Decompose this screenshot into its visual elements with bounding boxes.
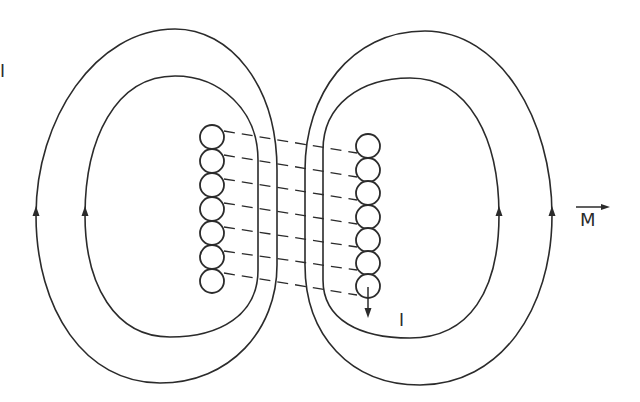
right-coil-turn-4 <box>356 205 380 229</box>
left-coil-turn-4 <box>200 197 224 221</box>
magnetization-label: M <box>580 211 596 229</box>
right-coil-turn-2 <box>356 158 380 182</box>
right-outer-arrow-up-icon <box>549 206 556 216</box>
left-outer-arrow-up-icon <box>33 206 40 216</box>
right-inner-arrow-up-icon <box>496 206 503 216</box>
right-coil-turn-1 <box>356 134 380 158</box>
left-coil-turn-5 <box>200 221 224 245</box>
left-coil-turn-3 <box>200 173 224 197</box>
winding-line-1 <box>224 131 357 153</box>
diagram-canvas: I I M <box>0 0 640 402</box>
winding-line-2 <box>224 155 357 177</box>
left-coil-turn-7 <box>200 269 224 293</box>
right-coil-turn-6 <box>356 251 380 275</box>
dashed-windings <box>224 131 357 295</box>
left-coil-turn-2 <box>200 149 224 173</box>
left-outer-field-loop <box>36 29 277 383</box>
winding-line-6 <box>224 251 357 270</box>
left-coil <box>200 125 224 293</box>
top-left-label: I <box>0 63 5 80</box>
right-inner-field-loop <box>323 78 499 338</box>
left-inner-field-loop <box>85 76 258 337</box>
winding-line-5 <box>224 227 357 247</box>
left-coil-turn-1 <box>200 125 224 149</box>
current-arrow-down-icon <box>365 308 372 318</box>
winding-line-3 <box>224 179 357 200</box>
winding-line-4 <box>224 203 357 224</box>
right-coil-turn-3 <box>356 181 380 205</box>
vector-m-arrow-right-icon <box>601 204 610 210</box>
right-coil-turn-5 <box>356 228 380 252</box>
left-coil-turn-6 <box>200 245 224 269</box>
left-inner-arrow-up-icon <box>82 206 89 216</box>
right-coil <box>356 134 380 298</box>
current-label: I <box>399 312 404 329</box>
right-outer-field-loop <box>305 31 552 385</box>
winding-line-7 <box>224 273 357 295</box>
diagram-svg <box>0 0 640 402</box>
